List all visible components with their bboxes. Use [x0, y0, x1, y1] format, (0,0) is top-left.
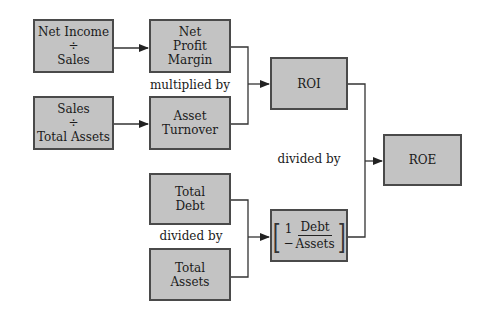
node-net-income-sales: Net Income ÷ Sales	[33, 19, 114, 73]
node-text: Profit	[173, 39, 207, 53]
divide-symbol: ÷	[68, 39, 78, 53]
divide-symbol: ÷	[68, 116, 78, 130]
bracket-roi-factor	[348, 84, 365, 237]
node-total-assets: Total Assets	[149, 248, 231, 301]
right-bracket: ]	[337, 219, 345, 253]
node-total-debt: Total Debt	[149, 173, 231, 225]
fraction: Debt Assets	[296, 220, 335, 251]
bracket-debt-assets	[231, 200, 248, 277]
bracket-margin-turnover	[231, 47, 248, 124]
label-divided-by-roi: divided by	[278, 152, 341, 166]
node-text: Sales	[57, 53, 89, 67]
node-text: Margin	[168, 53, 212, 67]
node-equity-factor: [ 1 − Debt Assets ]	[270, 209, 348, 262]
node-text: ROE	[409, 153, 437, 167]
left-bracket: [	[273, 219, 281, 253]
node-text: Asset	[174, 109, 207, 123]
node-roi: ROI	[270, 57, 348, 110]
label-divided-by-debt: divided by	[160, 229, 223, 243]
node-roe: ROE	[383, 134, 462, 186]
node-text: Total	[175, 261, 205, 275]
node-asset-turnover: Asset Turnover	[149, 96, 231, 150]
node-text: Sales	[57, 102, 89, 116]
node-text: Total	[175, 185, 205, 199]
node-text: Net	[179, 25, 201, 39]
node-net-profit-margin: Net Profit Margin	[149, 19, 231, 73]
node-text: ROI	[297, 77, 321, 91]
node-text: Total Assets	[37, 130, 110, 144]
label-multiplied-by: multiplied by	[150, 78, 230, 92]
one-minus: 1 −	[283, 222, 293, 250]
denominator: Assets	[296, 236, 335, 251]
node-text: Debt	[175, 199, 204, 213]
node-sales-total-assets: Sales ÷ Total Assets	[33, 96, 114, 150]
node-text: Turnover	[162, 123, 218, 137]
formula-one-minus-debt-over-assets: [ 1 − Debt Assets ]	[270, 219, 348, 253]
numerator: Debt	[298, 220, 331, 236]
node-text: Assets	[170, 275, 209, 289]
node-text: Net Income	[38, 25, 109, 39]
